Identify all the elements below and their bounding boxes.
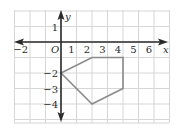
y-axis-label: y xyxy=(64,11,71,22)
coordinate-plane-figure: −21234561−2−3−4 x y O xyxy=(0,0,178,131)
origin-label: O xyxy=(51,44,59,55)
y-tick-label: −4 xyxy=(43,99,58,110)
x-tick-label: 6 xyxy=(146,44,152,55)
x-tick-label: 3 xyxy=(99,44,105,55)
x-tick-label: 4 xyxy=(115,44,121,55)
x-tick-label: 2 xyxy=(84,44,90,55)
tick-labels: −21234561−2−3−4 xyxy=(13,22,152,111)
y-tick-label: −2 xyxy=(43,68,58,79)
x-axis-label: x xyxy=(163,44,169,55)
coordinate-plane: −21234561−2−3−4 x y O xyxy=(0,0,178,131)
x-tick-label: 5 xyxy=(130,44,136,55)
y-tick-label: −3 xyxy=(43,84,58,95)
x-tick-label: −2 xyxy=(13,44,28,55)
x-tick-label: 1 xyxy=(68,44,74,55)
y-tick-label: 1 xyxy=(52,22,58,33)
grid-lines xyxy=(14,10,170,123)
